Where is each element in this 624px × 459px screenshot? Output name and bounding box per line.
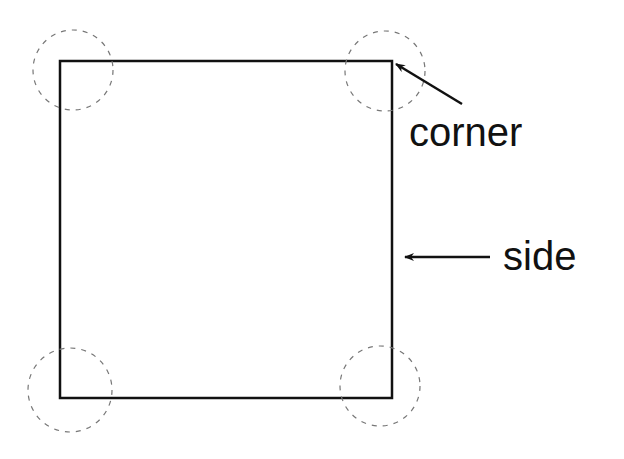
corner-marker-bottom-left xyxy=(28,348,112,432)
corner-arrow xyxy=(396,64,462,104)
corner-label: corner xyxy=(409,110,522,154)
side-label: side xyxy=(503,234,576,278)
corner-marker-top-left xyxy=(33,30,113,110)
square xyxy=(60,61,392,398)
square-diagram: corner side xyxy=(0,0,624,459)
corner-markers xyxy=(28,30,425,432)
corner-marker-top-right xyxy=(345,31,425,111)
corner-marker-bottom-right xyxy=(340,346,420,426)
